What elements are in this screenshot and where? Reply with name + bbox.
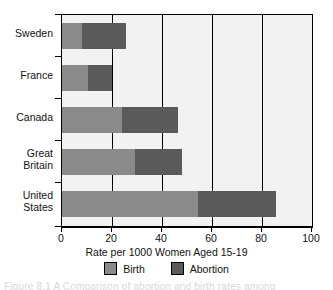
bar-segment-birth[interactable] bbox=[62, 107, 122, 133]
bar-segment-abortion[interactable] bbox=[198, 191, 276, 217]
category-label-france: France bbox=[0, 70, 53, 82]
bar-france[interactable] bbox=[62, 65, 112, 91]
legend-label-birth: Birth bbox=[123, 263, 145, 275]
legend-item-abortion[interactable]: Abortion bbox=[171, 262, 229, 275]
category-label-united-states: United States bbox=[0, 190, 53, 213]
bar-sweden[interactable] bbox=[62, 23, 126, 49]
x-axis-title: Rate per 1000 Women Aged 15-19 bbox=[0, 246, 333, 258]
x-axis-tick-label-0: 0 bbox=[41, 232, 81, 244]
bar-united-states[interactable] bbox=[62, 191, 276, 217]
bar-segment-birth[interactable] bbox=[62, 149, 135, 175]
bar-segment-abortion[interactable] bbox=[135, 149, 183, 175]
x-axis-tick-label-60: 60 bbox=[191, 232, 231, 244]
bar-segment-abortion[interactable] bbox=[88, 65, 112, 91]
legend-swatch-abortion bbox=[171, 262, 184, 275]
x-axis-tick-label-20: 20 bbox=[91, 232, 131, 244]
y-axis-category-labels: Sweden France Canada Great Britain Unite… bbox=[0, 14, 57, 226]
bar-segment-birth[interactable] bbox=[62, 191, 198, 217]
x-axis-line bbox=[61, 226, 312, 227]
chart-legend: Birth Abortion bbox=[0, 262, 333, 275]
bar-great-britain[interactable] bbox=[62, 149, 182, 175]
bar-segment-abortion[interactable] bbox=[122, 107, 178, 133]
plot-area bbox=[61, 14, 313, 228]
bar-segment-birth[interactable] bbox=[62, 23, 82, 49]
cropped-caption-text: Figure 8.1 A Comparison of abortion and … bbox=[0, 281, 333, 290]
category-label-great-britain: Great Britain bbox=[0, 148, 53, 171]
bar-canada[interactable] bbox=[62, 107, 178, 133]
category-label-sweden: Sweden bbox=[0, 28, 53, 40]
bar-segment-abortion[interactable] bbox=[82, 23, 126, 49]
legend-label-abortion: Abortion bbox=[190, 263, 229, 275]
legend-swatch-birth bbox=[104, 262, 117, 275]
bar-segment-birth[interactable] bbox=[62, 65, 88, 91]
legend-item-birth[interactable]: Birth bbox=[104, 262, 145, 275]
x-axis-tick-label-80: 80 bbox=[241, 232, 281, 244]
x-axis-tick-label-100: 100 bbox=[291, 232, 331, 244]
x-axis-tick-label-40: 40 bbox=[141, 232, 181, 244]
chart-figure: Sweden France Canada Great Britain Unite… bbox=[0, 0, 333, 290]
category-label-canada: Canada bbox=[0, 112, 53, 124]
